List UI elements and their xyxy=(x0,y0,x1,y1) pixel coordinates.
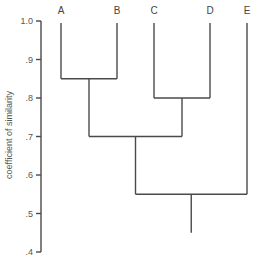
y-tick-label: .5 xyxy=(25,209,33,219)
leaf-label-c: C xyxy=(150,5,157,16)
y-tick-label: .9 xyxy=(25,55,33,65)
leaf-label-d: D xyxy=(206,5,213,16)
y-tick-label: 1.0 xyxy=(20,16,33,26)
branches xyxy=(61,23,247,233)
leaf-labels: ABCDE xyxy=(58,5,251,16)
y-tick-label: .8 xyxy=(25,93,33,103)
y-tick-label: .4 xyxy=(25,247,33,257)
leaf-label-a: A xyxy=(58,5,65,16)
leaf-label-b: B xyxy=(114,5,121,16)
dendrogram: coefficient of similarity 1.0.9.8.7.6.5.… xyxy=(0,0,254,259)
y-tick-label: .6 xyxy=(25,170,33,180)
y-axis-title: coefficient of similarity xyxy=(4,91,14,179)
y-tick-label: .7 xyxy=(25,132,33,142)
leaf-label-e: E xyxy=(244,5,251,16)
y-axis: 1.0.9.8.7.6.5.4 xyxy=(20,16,41,257)
